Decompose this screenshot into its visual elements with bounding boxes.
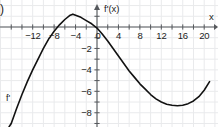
- y-tick-label: −8: [81, 108, 91, 118]
- y-axis-arrowhead: [94, 4, 100, 10]
- x-tick-label: −12: [25, 31, 41, 41]
- x-tick-label: 16: [178, 31, 188, 41]
- graph-figure: ) f'(x) x f' −12−8−4048121620 −2−4−6−8: [0, 0, 218, 127]
- plot-canvas: [0, 0, 218, 127]
- x-tick-label: 0: [96, 31, 101, 41]
- x-tick-label: 20: [199, 31, 209, 41]
- y-axis-label: f'(x): [104, 4, 120, 14]
- x-axis-label: x: [209, 12, 214, 22]
- x-axis-arrowhead: [214, 24, 218, 30]
- grid-lines: [0, 0, 218, 127]
- curve-label: f': [6, 94, 10, 103]
- y-tick-label: −2: [81, 44, 91, 54]
- x-tick-label: −4: [71, 31, 81, 41]
- x-tick-label: 8: [137, 31, 142, 41]
- problem-item-marker: ): [0, 3, 4, 15]
- y-tick-label: −6: [81, 87, 91, 97]
- x-tick-label: 12: [156, 31, 166, 41]
- x-tick-label: −8: [49, 31, 59, 41]
- x-tick-label: 4: [116, 31, 121, 41]
- y-tick-label: −4: [81, 65, 91, 75]
